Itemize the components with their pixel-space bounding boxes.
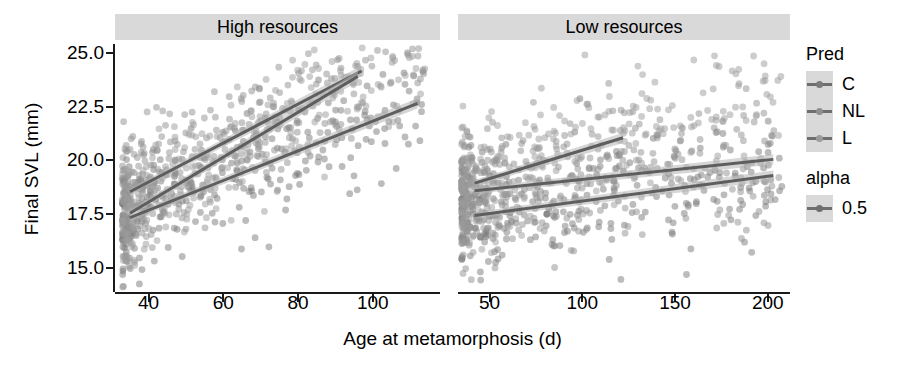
y-axis-tick-labels: 25.022.520.017.515.0 [46, 0, 104, 365]
x-tick-label: 80 [287, 292, 308, 314]
legend-key-swatch [806, 71, 833, 98]
x-tick-label: 200 [752, 292, 784, 314]
scatter-plot-svg [115, 44, 440, 292]
legend-item-pred-nl[interactable]: NL [806, 98, 910, 125]
chart-legend: Pred CNLL alpha 0.5 [806, 44, 910, 238]
legend-item-label: NL [842, 101, 865, 122]
panel-strip-label: Low resources [565, 17, 682, 38]
x-tick-label: 40 [138, 292, 159, 314]
x-tick-label: 50 [479, 292, 500, 314]
scatter-plot-svg [458, 44, 790, 292]
legend-key-point [816, 108, 823, 115]
panel-strip-high-resources: High resources [115, 14, 440, 40]
y-axis-line [113, 44, 115, 292]
legend-items-pred: CNLL [806, 71, 910, 152]
legend-key-swatch [806, 98, 833, 125]
legend-group-alpha: alpha 0.5 [806, 168, 910, 222]
legend-item-label: 0.5 [842, 198, 867, 219]
legend-key-point [816, 205, 823, 212]
legend-items-alpha: 0.5 [806, 195, 910, 222]
legend-title-alpha: alpha [806, 168, 910, 189]
chart-figure: Final SVL (mm) 25.022.520.017.515.0 High… [0, 0, 910, 365]
y-tick-label: 20.0 [46, 149, 104, 171]
y-tick-label: 25.0 [46, 42, 104, 64]
y-tick-mark [106, 52, 114, 54]
legend-item-label: C [842, 74, 855, 95]
y-tick-label: 22.5 [46, 96, 104, 118]
legend-item-label: L [842, 128, 852, 149]
legend-item-pred-c[interactable]: C [806, 71, 910, 98]
y-tick-mark [106, 267, 114, 269]
x-tick-label: 150 [659, 292, 691, 314]
legend-group-pred: Pred CNLL [806, 44, 910, 152]
y-tick-mark [106, 159, 114, 161]
legend-item-alpha-0-5[interactable]: 0.5 [806, 195, 910, 222]
legend-key-point [816, 135, 823, 142]
y-axis-title: Final SVL (mm) [21, 59, 43, 279]
panel-strip-low-resources: Low resources [458, 14, 790, 40]
x-tick-label: 60 [213, 292, 234, 314]
y-tick-label: 15.0 [46, 257, 104, 279]
x-axis-line [458, 292, 790, 294]
panel-strip-label: High resources [217, 17, 338, 38]
x-tick-label: 100 [566, 292, 598, 314]
legend-title-pred: Pred [806, 44, 910, 65]
y-tick-mark [106, 106, 114, 108]
x-axis-line [115, 292, 440, 294]
legend-key-point [816, 81, 823, 88]
plot-area-high-resources [115, 44, 440, 292]
y-tick-label: 17.5 [46, 203, 104, 225]
scatter-points [119, 45, 428, 291]
legend-item-pred-l[interactable]: L [806, 125, 910, 152]
x-axis-title: Age at metamorphosis (d) [115, 328, 790, 350]
legend-key-swatch [806, 195, 833, 222]
x-tick-label: 100 [357, 292, 389, 314]
y-tick-mark [106, 213, 114, 215]
plot-area-low-resources [458, 44, 790, 292]
legend-key-swatch [806, 125, 833, 152]
